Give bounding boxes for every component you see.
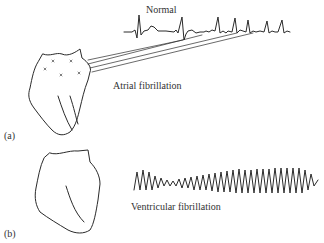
normal-label: Normal (146, 4, 177, 15)
atrial-dots (44, 60, 80, 76)
heart-a-outline (29, 49, 91, 135)
panel-b-label: (b) (4, 228, 16, 239)
panel-a-label: (a) (4, 130, 15, 141)
ventricular-fibrillation-label: Ventricular fibrillation (131, 201, 221, 212)
connector-lines (88, 33, 253, 72)
heart-b-septum (66, 186, 84, 222)
vf-trace (134, 168, 318, 193)
atrial-fibrillation-label: Atrial fibrillation (113, 80, 182, 91)
normal-ecg-trace (124, 15, 290, 40)
